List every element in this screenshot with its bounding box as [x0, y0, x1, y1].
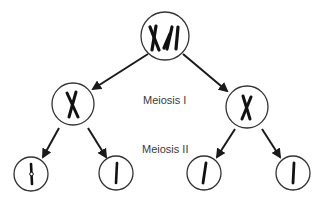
- chromatid-icon: [116, 163, 117, 183]
- arrow-right-to-bottom4: [262, 129, 280, 157]
- arrow-parent-to-left: [93, 54, 148, 89]
- arrow-parent-to-right: [183, 54, 227, 91]
- cell-parent: [141, 12, 189, 60]
- cell-meiosis1-right: [226, 86, 268, 128]
- arrow-left-to-bottom1: [43, 128, 59, 157]
- cell-meiosis2-1: [14, 157, 48, 191]
- stage-label-meiosis-1: Meiosis I: [143, 94, 186, 106]
- cell-meiosis2-4: [276, 156, 310, 190]
- chromatid-icon: [293, 163, 294, 183]
- cell-meiosis2-2: [99, 156, 133, 190]
- arrow-right-to-bottom3: [217, 129, 235, 157]
- arrow-left-to-bottom2: [88, 128, 106, 157]
- stage-label-meiosis-2: Meiosis II: [142, 143, 188, 155]
- cell-meiosis1-left: [52, 83, 94, 125]
- cell-meiosis2-3: [187, 156, 221, 190]
